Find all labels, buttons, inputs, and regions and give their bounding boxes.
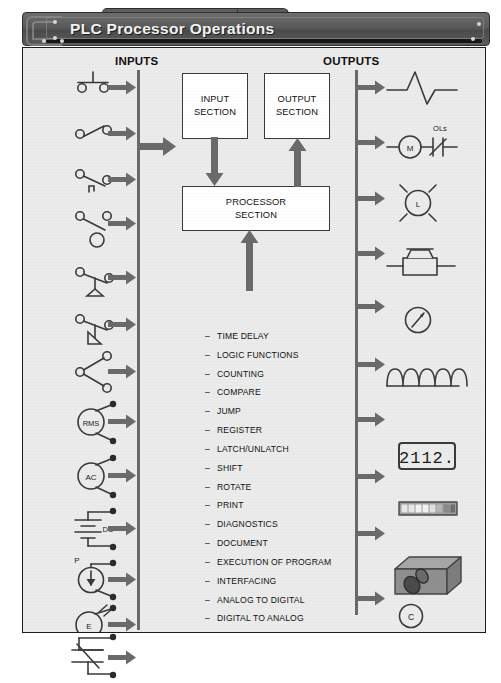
- motor-starter-icon: M OLs: [387, 124, 457, 158]
- actuator-block-icon: [395, 557, 461, 597]
- function-list-item: – LOGIC FUNCTIONS: [205, 350, 355, 361]
- function-list-item: – DIGITAL TO ANALOG: [205, 613, 355, 624]
- list-dash: –: [205, 369, 217, 380]
- processor-section-label: PROCESSOR SECTION: [226, 196, 286, 221]
- list-dash: –: [205, 406, 217, 417]
- list-dash: –: [205, 425, 217, 436]
- list-dash: –: [205, 387, 217, 398]
- function-list-item: – DOCUMENT: [205, 538, 355, 549]
- list-dash: –: [205, 519, 217, 530]
- input-section-box: INPUT SECTION: [182, 73, 248, 139]
- function-list-item: – DIAGNOSTICS: [205, 519, 355, 530]
- function-list-item: – ROTATE: [205, 482, 355, 493]
- page-title: PLC Processor Operations: [70, 20, 274, 38]
- function-label: LATCH/UNLATCH: [217, 444, 355, 455]
- function-label: PRINT: [217, 500, 355, 511]
- function-label: DIAGNOSTICS: [217, 519, 355, 530]
- function-label: SHIFT: [217, 463, 355, 474]
- seven-segment-display-icon: 2112.: [399, 443, 455, 469]
- function-list-item: – ANALOG TO DIGITAL: [205, 595, 355, 606]
- function-label: REGISTER: [217, 425, 355, 436]
- input-arrow-last: [103, 644, 143, 674]
- list-dash: –: [205, 444, 217, 455]
- svg-text:2112.: 2112.: [399, 449, 455, 468]
- svg-text:P: P: [74, 556, 79, 565]
- output-section-box: OUTPUT SECTION: [264, 73, 330, 139]
- function-label: ANALOG TO DIGITAL: [217, 595, 355, 606]
- analog-meter-icon: [406, 308, 431, 333]
- function-list-item: – LATCH/UNLATCH: [205, 444, 355, 455]
- list-dash: –: [205, 557, 217, 568]
- function-label: JUMP: [217, 406, 355, 417]
- bus-to-input-section-arrow: [135, 134, 179, 160]
- list-dash: –: [205, 576, 217, 587]
- function-label: DOCUMENT: [217, 538, 355, 549]
- plc-function-list: – TIME DELAY – LOGIC FUNCTIONS – COUNTIN…: [205, 331, 355, 632]
- function-list-item: – PRINT: [205, 500, 355, 511]
- function-label: DIGITAL TO ANALOG: [217, 613, 355, 624]
- svg-text:AC: AC: [85, 473, 96, 482]
- coil-winding-icon: [387, 369, 467, 386]
- svg-text:C: C: [408, 612, 414, 622]
- function-label: EXECUTION OF PROGRAM: [217, 557, 355, 568]
- function-label: LOGIC FUNCTIONS: [217, 350, 355, 361]
- list-dash: –: [205, 595, 217, 606]
- input-section-label: INPUT SECTION: [194, 93, 236, 118]
- function-list-item: – INTERFACING: [205, 576, 355, 587]
- diagram-panel: INPUTS OUTPUTS: [22, 47, 486, 633]
- list-dash: –: [205, 482, 217, 493]
- function-list-item: – JUMP: [205, 406, 355, 417]
- function-list-item: – REGISTER: [205, 425, 355, 436]
- pilot-light-icon: L: [400, 185, 436, 221]
- output-section-label: OUTPUT SECTION: [276, 93, 318, 118]
- bargraph-display-icon: [399, 502, 457, 515]
- function-label: COUNTING: [217, 369, 355, 380]
- function-label: COMPARE: [217, 387, 355, 398]
- function-label: TIME DELAY: [217, 331, 355, 342]
- function-list-item: – COUNTING: [205, 369, 355, 380]
- list-dash: –: [205, 538, 217, 549]
- function-list-item: – COMPARE: [205, 387, 355, 398]
- list-dash: –: [205, 463, 217, 474]
- title-banner: PLC Processor Operations: [22, 8, 488, 48]
- function-label: ROTATE: [217, 482, 355, 493]
- input-to-processor-arrow: [203, 136, 227, 188]
- control-relay-coil-icon: C: [400, 605, 423, 628]
- functions-to-processor-arrow: [238, 228, 262, 292]
- list-dash: –: [205, 350, 217, 361]
- function-list-item: – TIME DELAY: [205, 331, 355, 342]
- list-dash: –: [205, 613, 217, 624]
- output-symbols-group: M OLs L: [385, 64, 485, 632]
- svg-text:L: L: [416, 200, 421, 209]
- function-list-item: – SHIFT: [205, 463, 355, 474]
- processor-to-output-arrow: [286, 136, 310, 188]
- svg-text:M: M: [407, 144, 414, 153]
- solenoid-valve-icon: [387, 249, 455, 275]
- function-list-item: – EXECUTION OF PROGRAM: [205, 557, 355, 568]
- list-dash: –: [205, 500, 217, 511]
- heater-element-icon: [387, 72, 457, 104]
- processor-section-box: PROCESSOR SECTION: [182, 186, 330, 231]
- svg-text:RMS: RMS: [83, 419, 100, 428]
- list-dash: –: [205, 331, 217, 342]
- function-label: INTERFACING: [217, 576, 355, 587]
- svg-text:OLs: OLs: [433, 124, 447, 133]
